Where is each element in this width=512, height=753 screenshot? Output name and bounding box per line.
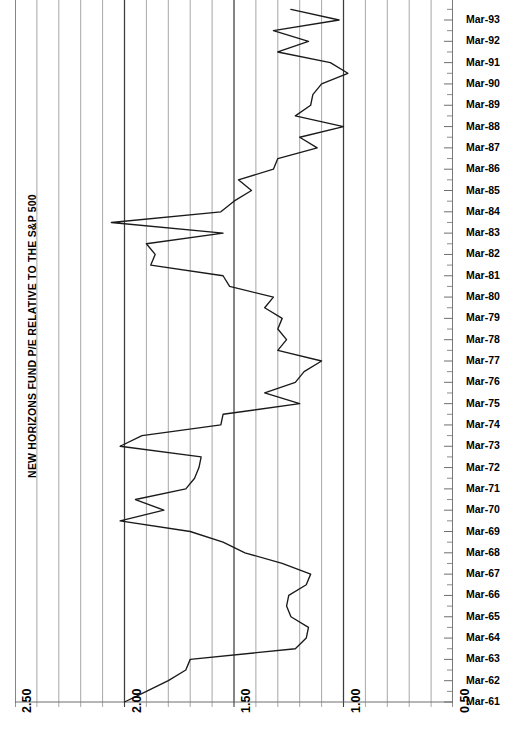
y-axis-label: Mar-73	[466, 440, 500, 451]
y-axis-label: Mar-92	[466, 35, 500, 46]
x-axis-label: 2.00	[130, 689, 144, 713]
y-axis-label: Mar-62	[466, 675, 500, 686]
y-axis-label: Mar-88	[466, 121, 500, 132]
y-axis-label: Mar-63	[466, 653, 500, 664]
y-axis-label: Mar-91	[466, 57, 500, 68]
y-axis-label: Mar-69	[466, 526, 500, 537]
y-axis-label: Mar-70	[466, 504, 500, 515]
y-axis-label: Mar-90	[466, 78, 500, 89]
y-axis-label: Mar-78	[466, 334, 500, 345]
y-axis-label: Mar-80	[466, 291, 500, 302]
y-axis-label: Mar-75	[466, 398, 500, 409]
y-axis-label: Mar-85	[466, 185, 500, 196]
y-axis-label: Mar-74	[466, 419, 500, 430]
x-axis-ticks-group	[15, 702, 453, 707]
y-axis-label: Mar-84	[466, 206, 500, 217]
y-axis-label: Mar-89	[466, 99, 500, 110]
x-axis-label: 1.00	[349, 689, 363, 713]
chart-canvas	[15, 0, 453, 707]
y-axis-label: Mar-64	[466, 632, 500, 643]
y-axis-label: Mar-77	[466, 355, 500, 366]
y-axis-label: Mar-68	[466, 547, 500, 558]
plot-area	[15, 0, 453, 707]
y-axis-label: Mar-72	[466, 462, 500, 473]
y-axis-label: Mar-79	[466, 312, 500, 323]
y-axis-label: Mar-66	[466, 589, 500, 600]
gridlines-group	[15, 0, 453, 702]
y-axis-label: Mar-67	[466, 568, 500, 579]
y-axis-label: Mar-71	[466, 483, 500, 494]
y-axis-label: Mar-86	[466, 163, 500, 174]
y-axis-label: Mar-93	[466, 14, 500, 25]
x-axis-label: 1.50	[239, 689, 253, 713]
y-axis-group	[444, 0, 453, 702]
y-axis-label: Mar-61	[466, 696, 500, 707]
x-axis-label: 2.50	[20, 689, 34, 713]
y-axis-label: Mar-76	[466, 376, 500, 387]
y-axis-label: Mar-65	[466, 611, 500, 622]
data-line-series	[111, 9, 348, 702]
y-axis-label: Mar-83	[466, 227, 500, 238]
y-axis-label: Mar-81	[466, 270, 500, 281]
y-axis-label: Mar-87	[466, 142, 500, 153]
y-axis-label: Mar-82	[466, 248, 500, 259]
chart-page: NEW HORIZONS FUND P/E RELATIVE TO THE S&…	[0, 0, 512, 753]
